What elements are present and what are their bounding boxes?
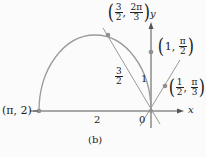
label-3-2-2pi-3: ( 32, 2π3 )	[107, 2, 151, 22]
y-axis-label: y	[150, 9, 156, 19]
radius-1-label: 1	[141, 74, 147, 84]
radius-3-2-label: 32	[115, 67, 123, 86]
label-1-pi-2: ( 1, π2 )	[157, 36, 195, 56]
origin-point	[149, 109, 153, 113]
x-axis-arrow-icon	[177, 109, 184, 114]
origin-label: 0	[139, 115, 145, 125]
caption: (b)	[88, 135, 102, 145]
polar-curve	[39, 35, 151, 111]
label-pi-2: (π, 2)	[2, 105, 32, 116]
polar-diagram: (π, 2) ( 32, 2π3 ) ( 1, π2 ) ( 12, π3 ) …	[0, 0, 206, 157]
radius-2-label: 2	[94, 115, 100, 125]
label-1-2-pi-3: ( 12, π3 )	[168, 77, 206, 97]
point-1-pi-2	[149, 50, 154, 55]
point-3-2-2pi-3	[106, 33, 111, 38]
point-1-2-pi-3	[163, 84, 168, 89]
x-axis-label: x	[188, 105, 194, 115]
